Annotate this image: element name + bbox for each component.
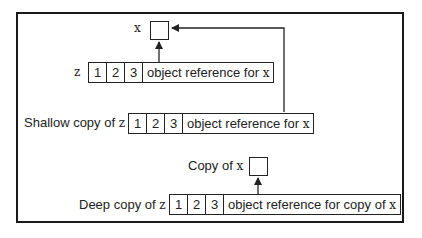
deep-reference-cell: object reference for copy of x <box>224 195 400 214</box>
shallow-cell-3: 3 <box>165 114 183 133</box>
z-cell-1: 1 <box>89 63 107 82</box>
z-cell-3: 3 <box>125 63 143 82</box>
shallow-reference-cell: object reference for x <box>183 114 313 133</box>
shallow-copy-label-text: Shallow copy of <box>24 115 119 130</box>
deep-copy-label-var: z <box>159 198 165 212</box>
shallow-reference-var: x <box>303 117 310 131</box>
copy-of-x-label: Copy of x <box>188 156 243 176</box>
z-list-row: 1 2 3 object reference for x <box>88 62 274 83</box>
shallow-copy-label-var: z <box>119 116 125 130</box>
copy-of-x-label-text: Copy of <box>188 158 236 173</box>
shallow-copy-row: 1 2 3 object reference for x <box>128 113 314 134</box>
copy-of-x-label-var: x <box>236 159 243 173</box>
deep-reference-text: object reference for copy of <box>228 197 389 212</box>
shallow-cell-2: 2 <box>147 114 165 133</box>
deep-copy-label-text: Deep copy of <box>79 197 159 212</box>
shallow-copy-label: Shallow copy of z <box>24 113 125 133</box>
shallow-cell-1: 1 <box>129 114 147 133</box>
deep-cell-1: 1 <box>170 195 188 214</box>
deep-reference-var: x <box>389 198 396 212</box>
deep-cell-3: 3 <box>206 195 224 214</box>
deep-copy-row: 1 2 3 object reference for copy of x <box>169 194 401 215</box>
z-label: z <box>74 62 80 82</box>
copy-of-x-box <box>249 157 268 176</box>
deep-copy-label: Deep copy of z <box>79 195 166 215</box>
deep-cell-2: 2 <box>188 195 206 214</box>
x-object-box <box>150 21 169 40</box>
z-reference-cell: object reference for x <box>143 63 273 82</box>
z-cell-2: 2 <box>107 63 125 82</box>
z-reference-var: x <box>263 66 270 80</box>
shallow-reference-text: object reference for <box>187 116 303 131</box>
z-reference-text: object reference for <box>147 65 263 80</box>
x-label: x <box>134 18 141 38</box>
